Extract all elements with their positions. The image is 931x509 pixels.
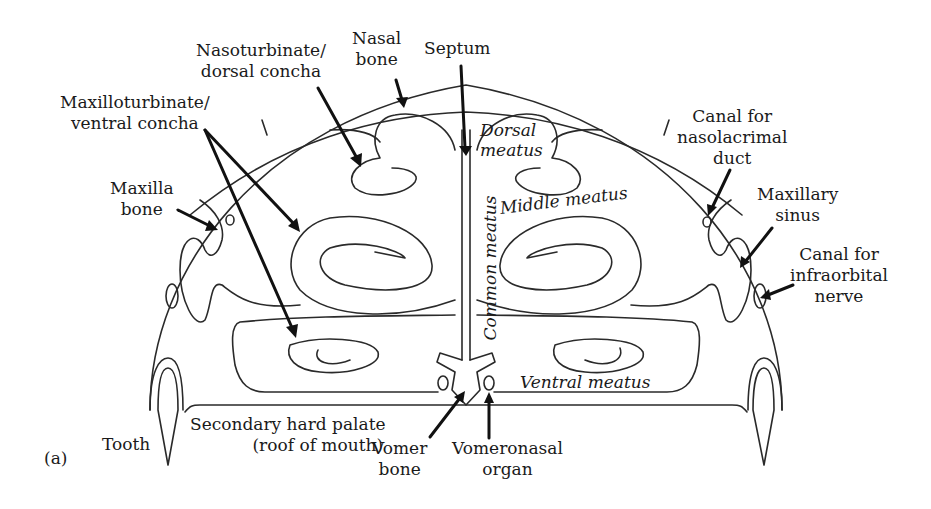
left-dorsal-curve (330, 130, 380, 142)
label-hard-palate: Secondary hard palate (roof of mouth) (190, 414, 386, 456)
left-infraorbital-canal (166, 284, 178, 308)
label-vomer-bone: Vomer bone (372, 438, 427, 480)
label-maxilloturbinate: Maxilloturbinate/ ventral concha (60, 92, 210, 134)
vomer-bone-shape (437, 353, 495, 405)
left-vomeronasal-organ (438, 376, 448, 390)
right-tooth (753, 368, 774, 465)
left-ventral-chamber (233, 315, 455, 392)
right-maxilla-contour (631, 200, 751, 322)
label-tooth: Tooth (102, 434, 150, 455)
region-ventral-meatus: Ventral meatus (520, 372, 650, 393)
right-nasolacrimal-canal (703, 217, 711, 227)
region-common-meatus: Common meatus (480, 201, 501, 341)
label-nasal-bone: Nasal bone (352, 28, 401, 70)
right-ventral-concha (554, 339, 644, 372)
panel-label: (a) (44, 448, 67, 469)
label-canal-nasolacrimal: Canal for nasolacrimal duct (677, 106, 787, 169)
left-middle-concha (291, 216, 455, 313)
label-septum: Septum (424, 38, 491, 59)
label-maxilla-bone: Maxilla bone (110, 178, 174, 220)
region-dorsal-meatus: Dorsal meatus (480, 120, 543, 160)
label-vomeronasal-organ: Vomeronasal organ (452, 438, 563, 480)
right-middle-concha (477, 216, 641, 313)
right-vomeronasal-organ (484, 376, 494, 390)
label-maxillary-sinus: Maxillary sinus (757, 184, 838, 226)
label-canal-infraorbital: Canal for infraorbital nerve (790, 244, 888, 307)
suture-right (664, 120, 669, 135)
right-dorsal-curve (552, 130, 602, 142)
left-nasolacrimal-canal (226, 215, 234, 225)
suture-left (262, 120, 267, 135)
label-nasoturbinate: Nasoturbinate/ dorsal concha (196, 40, 326, 82)
left-ventral-concha (289, 339, 379, 372)
hard-palate-line (185, 405, 747, 412)
left-tooth (158, 368, 178, 465)
